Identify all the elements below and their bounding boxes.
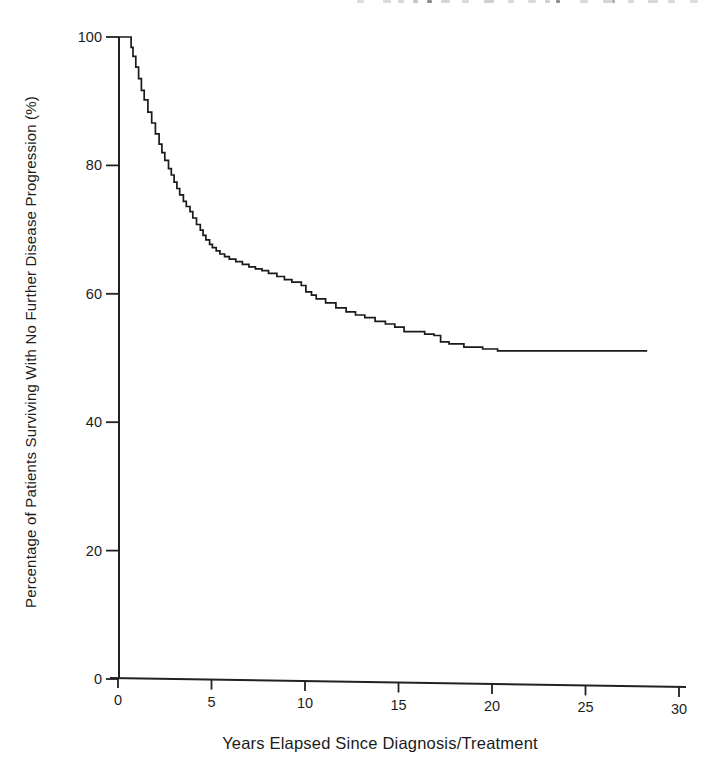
x-tick-label-0: 0 <box>114 692 122 708</box>
axis-tick-labels: 051015202530020406080100 <box>78 29 687 717</box>
x-tick-label-15: 15 <box>390 697 406 713</box>
survival-curve-plot: 051015202530020406080100 <box>0 0 709 762</box>
x-tick-label-30: 30 <box>671 701 687 717</box>
y-tick-label-20: 20 <box>86 543 102 559</box>
page-background: Percentage of Patients Surviving With No… <box>0 0 709 762</box>
x-tick-label-5: 5 <box>207 694 215 710</box>
x-tick-label-10: 10 <box>297 695 313 711</box>
y-tick-label-40: 40 <box>86 414 102 430</box>
axes <box>110 37 686 687</box>
y-tick-label-100: 100 <box>78 29 102 45</box>
axis-ticks <box>106 37 679 697</box>
x-tick-label-25: 25 <box>577 699 593 715</box>
km-survival-curve <box>118 37 647 351</box>
x-tick-label-20: 20 <box>484 698 500 714</box>
y-tick-label-0: 0 <box>94 671 102 687</box>
y-tick-label-80: 80 <box>86 157 102 173</box>
x-axis-title: Years Elapsed Since Diagnosis/Treatment <box>120 734 640 753</box>
y-tick-label-60: 60 <box>86 286 102 302</box>
